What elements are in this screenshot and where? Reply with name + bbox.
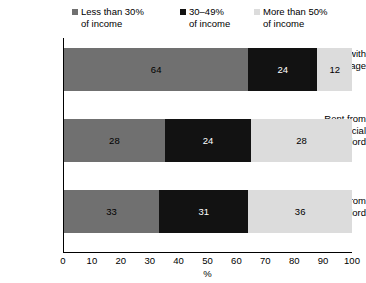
x-axis-tick-label: 10 (87, 255, 98, 266)
x-axis-tick-label: 0 (60, 255, 65, 266)
x-axis-tick-label: 100 (344, 255, 360, 266)
segment-value-label: 33 (106, 206, 117, 217)
legend-item-30-to-49: 30–49% of income (180, 6, 254, 29)
segment-more-than-50: 12 (317, 48, 352, 91)
x-axis-tick-labels: 0102030405060708090100 (63, 255, 352, 269)
legend-item-label: More than 50% of income (263, 6, 327, 29)
segment-value-label: 28 (296, 135, 307, 146)
x-axis-tick-label: 80 (289, 255, 300, 266)
x-axis-tick-label: 90 (318, 255, 329, 266)
stacked-bar-chart: Less than 30% of income 30–49% of income… (0, 0, 366, 283)
x-axis-tick-label: 30 (144, 255, 155, 266)
x-axis-tick-label: 70 (260, 255, 271, 266)
x-axis-tick-label: 20 (116, 255, 127, 266)
x-axis-line (63, 252, 352, 253)
segment-30-to-49: 31 (159, 190, 248, 233)
bar-row-rent-from-social-landlord: 282428 (64, 119, 352, 162)
chart-legend: Less than 30% of income 30–49% of income… (72, 6, 366, 29)
segment-30-to-49: 24 (248, 48, 317, 91)
bar-row-own-with-mortgage: 642412 (64, 48, 352, 91)
legend-item-label: Less than 30% of income (81, 6, 144, 29)
x-axis-tick-label: 60 (231, 255, 242, 266)
segment-30-to-49: 24 (165, 119, 251, 162)
square-marker-icon (254, 9, 260, 15)
x-axis-title: % (63, 268, 352, 279)
x-axis-tick-label: 50 (202, 255, 213, 266)
segment-value-label: 12 (329, 64, 340, 75)
square-marker-icon (180, 9, 186, 15)
segment-more-than-50: 36 (248, 190, 352, 233)
bar-row-rent-from-landlord: 333136 (64, 190, 352, 233)
legend-item-label: 30–49% of income (189, 6, 230, 29)
segment-value-label: 24 (278, 64, 289, 75)
segment-value-label: 36 (295, 206, 306, 217)
segment-value-label: 31 (198, 206, 209, 217)
segment-value-label: 24 (203, 135, 214, 146)
segment-less-than-30: 64 (64, 48, 248, 91)
segment-less-than-30: 28 (64, 119, 165, 162)
square-marker-icon (72, 9, 78, 15)
segment-less-than-30: 33 (64, 190, 159, 233)
legend-item-less-than-30: Less than 30% of income (72, 6, 180, 29)
segment-more-than-50: 28 (251, 119, 352, 162)
legend-item-more-than-50: More than 50% of income (254, 6, 366, 29)
plot-area: 642412 282428 333136 (63, 38, 352, 252)
segment-value-label: 64 (151, 64, 162, 75)
x-axis-tick-label: 40 (173, 255, 184, 266)
segment-value-label: 28 (109, 135, 120, 146)
